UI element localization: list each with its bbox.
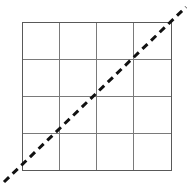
- chart-background: [0, 0, 190, 184]
- grid-diagonal-chart: [0, 0, 190, 184]
- figure-canvas: [0, 0, 190, 184]
